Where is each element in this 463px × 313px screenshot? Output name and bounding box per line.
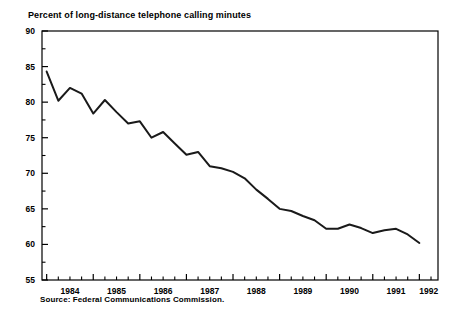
x-axis-tick-label: 1988	[247, 286, 266, 296]
y-axis-tick-label: 65	[26, 204, 36, 214]
y-axis-tick-label: 85	[26, 62, 36, 72]
x-axis-tick-label: 1989	[293, 286, 312, 296]
plot-frame	[42, 31, 438, 280]
y-axis-tick-label: 90	[26, 26, 36, 36]
chart-figure: Percent of long-distance telephone calli…	[0, 0, 463, 313]
data-line-series	[47, 72, 420, 243]
y-axis-tick-label: 75	[26, 133, 36, 143]
line-chart-plot: 5560657075808590 19841985198619871988198…	[0, 0, 463, 313]
y-axis-group: 5560657075808590	[26, 26, 48, 285]
x-axis-tick-label: 1991	[387, 286, 406, 296]
x-axis-group: 198419851986198719881989199019911992	[47, 274, 439, 296]
y-axis-tick-label: 70	[26, 168, 36, 178]
source-note: Source: Federal Communications Commissio…	[40, 295, 224, 304]
y-axis-tick-label: 80	[26, 97, 36, 107]
x-axis-tick-label: 1990	[340, 286, 359, 296]
x-axis-tick-label: 1992	[419, 286, 438, 296]
y-axis-tick-label: 60	[26, 239, 36, 249]
y-axis-tick-label: 55	[26, 275, 36, 285]
